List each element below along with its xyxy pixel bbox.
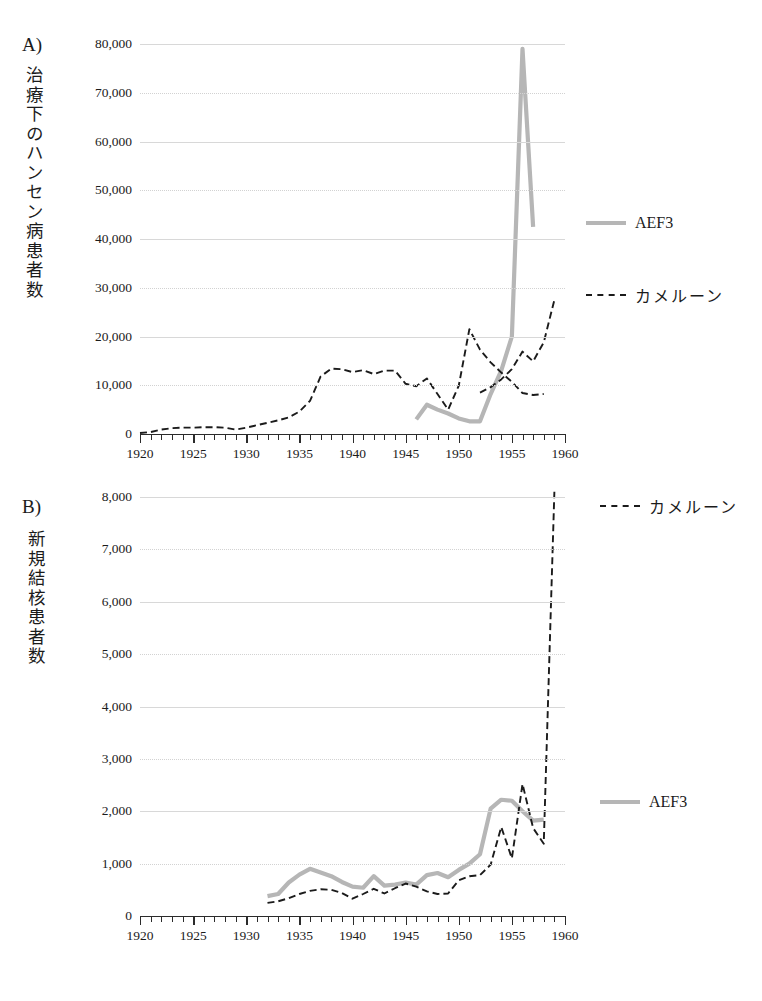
x-tick-minor <box>544 434 545 440</box>
gridline <box>140 44 565 45</box>
x-tick-label: 1925 <box>180 446 207 462</box>
y-tick-label: 0 <box>125 908 132 924</box>
gridline <box>140 759 565 760</box>
x-tick-minor <box>448 434 449 440</box>
panel-b-legend-cameroun-label: カメルーン <box>649 494 738 518</box>
x-tick-minor <box>438 434 439 440</box>
x-tick-minor <box>310 434 311 440</box>
x-tick-major <box>193 434 194 443</box>
x-tick-minor <box>161 434 162 440</box>
panel-b-y-tick-labels: 01,0002,0003,0004,0005,0006,0007,0008,00… <box>62 497 132 916</box>
y-tick-label: 80,000 <box>95 36 132 52</box>
y-tick-label: 7,000 <box>102 541 132 557</box>
x-tick-major <box>353 916 354 925</box>
y-tick-label: 2,000 <box>102 803 132 819</box>
y-tick-label: 4,000 <box>102 699 132 715</box>
x-tick-minor <box>289 916 290 922</box>
x-tick-minor <box>523 434 524 440</box>
gridline <box>140 239 565 240</box>
panel-a-y-tick-labels: 010,00020,00030,00040,00050,00060,00070,… <box>62 44 132 434</box>
gridline <box>140 811 565 812</box>
panel-a-plot-area <box>140 44 565 434</box>
y-tick-label: 8,000 <box>102 489 132 505</box>
x-tick-major <box>246 916 247 925</box>
x-tick-minor <box>480 916 481 922</box>
panel-a-letter: A) <box>22 34 42 56</box>
x-tick-minor <box>384 434 385 440</box>
x-tick-major <box>512 434 513 443</box>
gridline <box>140 497 565 498</box>
x-tick-minor <box>214 916 215 922</box>
x-tick-minor <box>533 916 534 922</box>
x-tick-minor <box>342 916 343 922</box>
x-tick-minor <box>342 434 343 440</box>
x-tick-minor <box>491 916 492 922</box>
x-tick-label: 1930 <box>233 928 260 944</box>
x-tick-minor <box>501 434 502 440</box>
panel-b-y-axis-title: 新規結核患者数 <box>26 530 44 667</box>
x-tick-minor <box>289 434 290 440</box>
panel-b-legend-aef3: AEF3 <box>600 793 687 811</box>
x-tick-minor <box>374 916 375 922</box>
dashed-line-swatch-icon <box>586 294 626 296</box>
x-tick-minor <box>268 434 269 440</box>
x-tick-minor <box>257 434 258 440</box>
y-tick-label: 20,000 <box>95 329 132 345</box>
series-line <box>480 300 554 393</box>
x-tick-minor <box>363 916 364 922</box>
x-tick-label: 1925 <box>180 928 207 944</box>
x-tick-minor <box>554 916 555 922</box>
x-tick-minor <box>331 916 332 922</box>
y-tick-label: 1,000 <box>102 856 132 872</box>
x-tick-minor <box>204 434 205 440</box>
x-tick-minor <box>554 434 555 440</box>
y-tick-label: 0 <box>125 426 132 442</box>
x-tick-minor <box>236 916 237 922</box>
x-tick-minor <box>236 434 237 440</box>
series-line <box>268 800 544 896</box>
panel-a-y-axis-title: 治療下のハンセン病患者数 <box>24 66 42 300</box>
solid-line-swatch-icon <box>586 221 626 225</box>
x-tick-label: 1930 <box>233 446 260 462</box>
x-tick-minor <box>523 916 524 922</box>
y-tick-label: 30,000 <box>95 280 132 296</box>
x-tick-minor <box>363 434 364 440</box>
x-tick-label: 1945 <box>392 446 419 462</box>
x-tick-minor <box>384 916 385 922</box>
y-tick-label: 6,000 <box>102 594 132 610</box>
x-tick-minor <box>321 434 322 440</box>
x-tick-label: 1960 <box>552 928 579 944</box>
gridline <box>140 288 565 289</box>
x-tick-major <box>512 916 513 925</box>
x-tick-label: 1955 <box>498 928 525 944</box>
gridline <box>140 142 565 143</box>
x-tick-major <box>246 434 247 443</box>
panel-b-plot-area <box>140 497 565 916</box>
x-tick-major <box>140 434 141 443</box>
y-tick-label: 60,000 <box>95 134 132 150</box>
x-tick-minor <box>501 916 502 922</box>
x-tick-major <box>565 916 566 925</box>
x-tick-minor <box>374 434 375 440</box>
y-tick-label: 5,000 <box>102 646 132 662</box>
x-tick-minor <box>268 916 269 922</box>
x-tick-minor <box>480 434 481 440</box>
x-tick-minor <box>225 434 226 440</box>
x-tick-label: 1940 <box>339 928 366 944</box>
x-tick-minor <box>438 916 439 922</box>
x-tick-label: 1940 <box>339 446 366 462</box>
gridline <box>140 385 565 386</box>
panel-a-legend-cameroun: カメルーン <box>586 283 724 307</box>
x-tick-minor <box>204 916 205 922</box>
panel-b-legend-cameroun: カメルーン <box>600 494 738 518</box>
x-tick-label: 1950 <box>445 928 472 944</box>
x-tick-minor <box>278 916 279 922</box>
x-tick-major <box>459 916 460 925</box>
x-tick-label: 1960 <box>552 446 579 462</box>
x-tick-minor <box>491 434 492 440</box>
solid-line-swatch-icon <box>600 800 640 804</box>
gridline <box>140 549 565 550</box>
x-tick-label: 1950 <box>445 446 472 462</box>
gridline <box>140 337 565 338</box>
chart-panel-a: A) 治療下のハンセン病患者数 010,00020,00030,00040,00… <box>0 0 762 480</box>
